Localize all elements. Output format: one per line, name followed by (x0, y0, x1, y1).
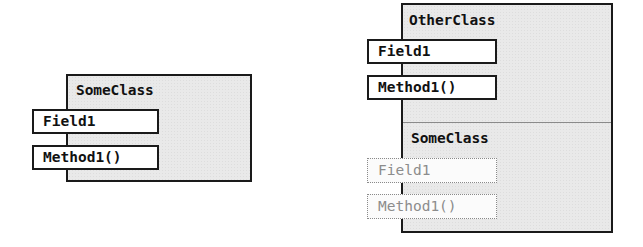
inherited-method1: Method1() (367, 194, 497, 219)
someclass-title: SomeClass (76, 82, 154, 98)
otherclass-field1: Field1 (367, 39, 497, 64)
someclass-method1: Method1() (32, 145, 159, 170)
inherited-someclass-title: SomeClass (411, 130, 489, 146)
otherclass-title: OtherClass (409, 12, 495, 28)
inheritance-divider (403, 122, 611, 123)
inherited-field1: Field1 (367, 158, 497, 183)
otherclass-method1: Method1() (367, 75, 497, 100)
someclass-field1: Field1 (32, 109, 159, 134)
